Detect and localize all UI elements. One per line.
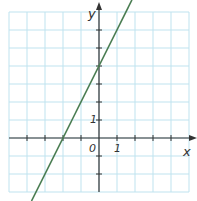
y-axis-arrow-icon xyxy=(96,2,102,10)
x-axis-arrow-icon xyxy=(189,135,197,141)
y-tick-label-1: 1 xyxy=(90,113,97,126)
y-axis-label: y xyxy=(88,6,96,21)
x-tick-label-1: 1 xyxy=(114,142,121,155)
origin-label: 0 xyxy=(89,142,96,155)
line-chart xyxy=(0,0,197,201)
x-axis-label: x xyxy=(183,144,191,159)
